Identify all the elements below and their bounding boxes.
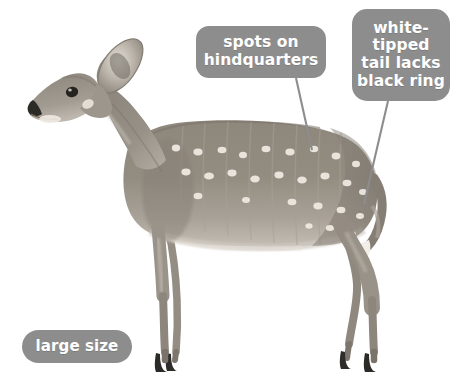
callout-white-tipped-tail[interactable]: white- tipped tail lacks black ring <box>352 9 450 101</box>
illustration-canvas: spots on hindquarters white- tipped tail… <box>0 0 460 384</box>
callout-size-label: large size <box>36 338 119 355</box>
callout-tail-line-2: tipped <box>357 37 445 55</box>
callout-tail-line-1: white- <box>357 20 445 38</box>
callout-spots-line-2: hindquarters <box>204 52 319 70</box>
front-leg-near <box>155 228 167 372</box>
callout-spots-on-hindquarters[interactable]: spots on hindquarters <box>196 26 326 78</box>
callout-tail-line-4: black ring <box>357 73 445 91</box>
callout-large-size[interactable]: large size <box>22 330 132 363</box>
callout-tail-line-3: tail lacks <box>357 55 445 73</box>
callout-spots-line-1: spots on <box>204 34 319 52</box>
